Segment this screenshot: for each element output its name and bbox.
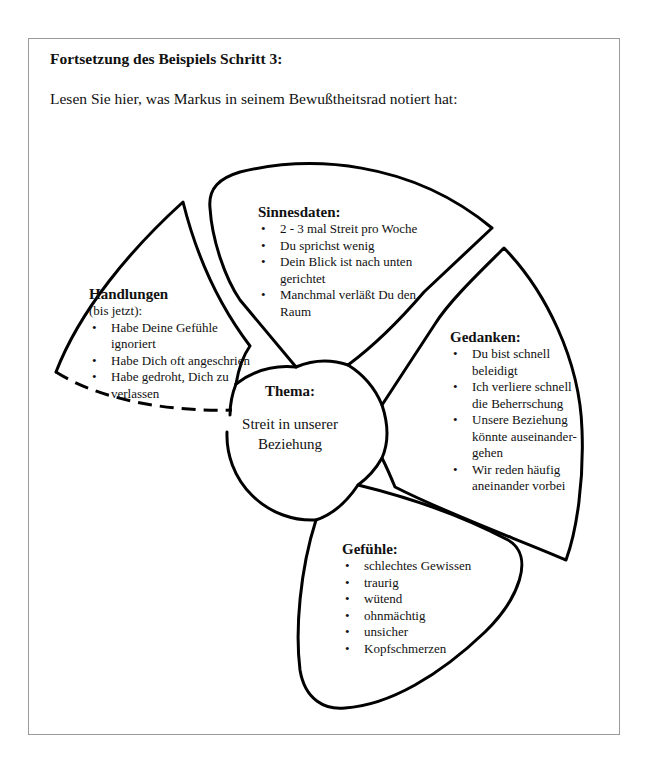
center-theme: Thema: Streit in unserer Beziehung <box>215 382 365 454</box>
list-item: Habe Deine Gefühle ignoriert <box>89 320 229 353</box>
list-item: Du sprichst wenig <box>258 238 473 255</box>
theme-body: Streit in unserer Beziehung <box>215 414 365 454</box>
sinnesdaten-title: Sinnesdaten: <box>258 203 473 221</box>
list-item: Habe gedroht, Dich zu verlassen <box>89 369 229 402</box>
list-item: Kopfschmerzen <box>342 641 512 658</box>
list-item: ohnmächtig <box>342 608 512 625</box>
list-item: Ich verliere schnell die Beherrschung <box>450 379 582 412</box>
theme-title: Thema: <box>215 382 365 400</box>
handlungen-title: Handlungen <box>89 285 269 303</box>
theme-line-1: Streit in unserer <box>215 414 365 434</box>
theme-line-2: Beziehung <box>215 434 365 454</box>
list-item: Du bist schnell beleidigt <box>450 346 562 379</box>
gedanken-title: Gedanken: <box>450 328 580 346</box>
list-item: unsicher <box>342 624 512 641</box>
list-item: Dein Blick ist nach unten gerichtet <box>258 254 445 287</box>
list-item: Manchmal verläßt Du den Raum <box>258 287 445 320</box>
sinnesdaten-list: 2 - 3 mal Streit pro Woche Du sprichst w… <box>258 221 473 320</box>
sinnesdaten-section: Sinnesdaten: 2 - 3 mal Streit pro Woche … <box>258 203 473 320</box>
list-item: schlechtes Gewissen <box>342 558 512 575</box>
list-item: Unsere Beziehung könnte auseinander-gehe… <box>450 412 577 462</box>
list-item: Wir reden häufig aneinander vorbei <box>450 462 582 495</box>
list-item: 2 - 3 mal Streit pro Woche <box>258 221 473 238</box>
list-item: traurig <box>342 575 512 592</box>
gefuehle-list: schlechtes Gewissen traurig wütend ohnmä… <box>342 558 512 657</box>
gefuehle-section: Gefühle: schlechtes Gewissen traurig wüt… <box>342 540 512 657</box>
list-item: wütend <box>342 591 512 608</box>
gedanken-section: Gedanken: Du bist schnell beleidigt Ich … <box>450 328 580 495</box>
gefuehle-title: Gefühle: <box>342 540 512 558</box>
handlungen-subtitle: (bis jetzt): <box>89 303 269 320</box>
gedanken-list: Du bist schnell beleidigt Ich verliere s… <box>450 346 580 495</box>
list-item: Habe Dich oft angeschrien <box>89 353 269 370</box>
